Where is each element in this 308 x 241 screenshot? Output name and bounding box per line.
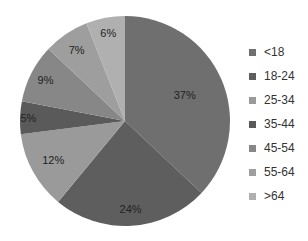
legend-swatch bbox=[249, 193, 256, 200]
slice-label: 12% bbox=[42, 154, 64, 166]
legend-label: 35-44 bbox=[264, 117, 295, 131]
legend-label: 55-64 bbox=[264, 165, 295, 179]
slice-label: 9% bbox=[38, 74, 54, 86]
slice-label: 37% bbox=[174, 89, 196, 101]
legend-label: 25-34 bbox=[264, 93, 295, 107]
legend-label: 45-54 bbox=[264, 141, 295, 155]
legend-item: <18 bbox=[249, 40, 295, 64]
legend-item: >64 bbox=[249, 184, 295, 208]
slice-label: 5% bbox=[20, 112, 36, 124]
legend-item: 18-24 bbox=[249, 64, 295, 88]
slice-label: 24% bbox=[120, 203, 142, 215]
legend-swatch bbox=[249, 73, 256, 80]
legend-label: <18 bbox=[264, 45, 284, 59]
legend-item: 55-64 bbox=[249, 160, 295, 184]
legend-label: >64 bbox=[264, 189, 284, 203]
legend-swatch bbox=[249, 49, 256, 56]
legend-swatch bbox=[249, 145, 256, 152]
legend-item: 45-54 bbox=[249, 136, 295, 160]
legend-label: 18-24 bbox=[264, 69, 295, 83]
legend-item: 35-44 bbox=[249, 112, 295, 136]
legend: <18 18-24 25-34 35-44 45-54 55-64 >64 bbox=[249, 40, 295, 208]
slice-label: 6% bbox=[100, 27, 116, 39]
legend-swatch bbox=[249, 97, 256, 104]
slice-label: 7% bbox=[69, 44, 85, 56]
legend-swatch bbox=[249, 121, 256, 128]
pie-chart: 37%24%12%5%9%7%6% bbox=[0, 0, 240, 241]
legend-swatch bbox=[249, 169, 256, 176]
legend-item: 25-34 bbox=[249, 88, 295, 112]
